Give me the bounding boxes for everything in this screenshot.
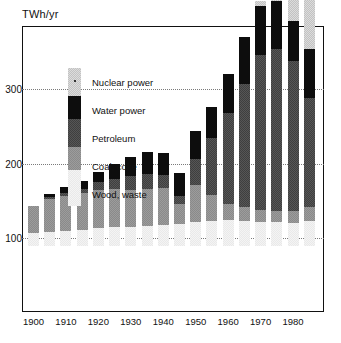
legend-label-water: Water power (92, 105, 146, 116)
bar-1905 (44, 194, 55, 246)
bar-segment-petroleum (239, 84, 250, 208)
y-tick-label-200: 200 (5, 158, 22, 169)
bar-segment-wood (271, 222, 282, 246)
chart-root: TWh/yr 100200300 Nuclear power Water pow… (0, 0, 341, 343)
bar-segment-water (271, 1, 282, 49)
bar-segment-wood (142, 226, 153, 246)
y-tick-label-100: 100 (5, 232, 22, 243)
bar-segment-wood (28, 233, 39, 246)
legend-label-wood: Wood, waste (92, 189, 147, 200)
bar-segment-petroleum (223, 113, 234, 204)
bar-segment-water (304, 49, 315, 98)
x-axis-ticks: 190019101920193019401950196019701980 (22, 314, 324, 334)
bar-segment-water (239, 37, 250, 84)
bar-segment-petroleum (255, 55, 266, 209)
bar-segment-petroleum (288, 61, 299, 212)
x-tick-label-1960: 1960 (218, 316, 239, 327)
bar-segment-nuclear (304, 0, 315, 49)
bar-segment-wood (158, 225, 169, 246)
bar-segment-water (255, 6, 266, 56)
bar-segment-wood (239, 221, 250, 246)
bar-segment-wood (304, 221, 315, 246)
chart-legend: Nuclear power Water power Petroleum Coal… (68, 68, 208, 206)
bar-1960 (223, 74, 234, 246)
bar-segment-petroleum (206, 138, 217, 194)
bar-segment-coal (271, 211, 282, 222)
bar-segment-wood (93, 228, 104, 246)
bar-segment-wood (44, 232, 55, 246)
bar-segment-coal (44, 199, 55, 232)
bar-segment-coal (239, 207, 250, 220)
bar-segment-coal (223, 204, 234, 220)
bar-segment-water (206, 107, 217, 138)
bar-segment-wood (223, 220, 234, 246)
x-tick-label-1940: 1940 (153, 316, 174, 327)
legend-swatch-water (68, 96, 81, 119)
legend-swatch-coal (68, 147, 81, 170)
bar-segment-wood (174, 224, 185, 246)
bar-segment-wood (255, 222, 266, 246)
nuclear-marker-dot (74, 80, 76, 82)
bar-segment-wood (125, 227, 136, 246)
bar-segment-coal (255, 210, 266, 222)
legend-label-nuclear: Nuclear power (92, 77, 153, 88)
x-tick-label-1910: 1910 (55, 316, 76, 327)
x-tick-label-1900: 1900 (23, 316, 44, 327)
bar-1955 (206, 107, 217, 246)
bar-segment-coal (304, 207, 315, 221)
legend-label-coal: Coal, coke (92, 161, 137, 172)
bar-segment-coal (28, 206, 39, 233)
bar-segment-coal (288, 211, 299, 223)
bar-segment-petroleum (271, 49, 282, 211)
bar-1980 (288, 0, 299, 246)
bar-segment-coal (206, 195, 217, 221)
bar-segment-wood (190, 222, 201, 246)
x-tick-label-1970: 1970 (250, 316, 271, 327)
x-tick-label-1950: 1950 (185, 316, 206, 327)
legend-label-petroleum: Petroleum (92, 133, 135, 144)
bar-segment-wood (60, 231, 71, 246)
legend-swatch-wood (68, 170, 81, 206)
x-tick-label-1930: 1930 (120, 316, 141, 327)
bar-segment-wood (288, 223, 299, 246)
bar-1970 (255, 1, 266, 246)
x-tick-label-1920: 1920 (88, 316, 109, 327)
bar-segment-coal (174, 204, 185, 224)
bar-segment-water (288, 21, 299, 60)
bar-1985 (304, 0, 315, 246)
x-tick-label-1980: 1980 (282, 316, 303, 327)
bar-segment-petroleum (304, 98, 315, 207)
bar-1975 (271, 0, 282, 246)
bar-segment-wood (109, 227, 120, 246)
legend-swatch-column (68, 68, 81, 206)
bar-1965 (239, 37, 250, 246)
bar-segment-wood (77, 230, 88, 246)
bar-segment-wood (206, 221, 217, 246)
bar-segment-nuclear (288, 0, 299, 21)
legend-swatch-petroleum (68, 119, 81, 147)
y-tick-label-300: 300 (5, 84, 22, 95)
bar-1900 (28, 206, 39, 246)
bar-segment-water (223, 74, 234, 113)
